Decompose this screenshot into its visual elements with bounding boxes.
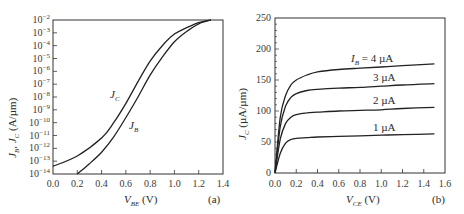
ib-curve — [275, 84, 434, 173]
jb-curve — [77, 20, 211, 174]
panel-a-x-ticks: 0.00.20.40.60.81.01.21.4 — [47, 170, 230, 189]
y-tick-label: 10−6 — [33, 64, 51, 76]
ib1-label: 1 µA — [373, 121, 396, 133]
x-tick-label: 0.0 — [269, 178, 282, 189]
y-tick-label: 10−9 — [33, 103, 51, 115]
x-tick-label: 0.6 — [333, 178, 346, 189]
y-tick-label: 50 — [261, 136, 271, 147]
x-tick-label: 1.4 — [217, 178, 230, 189]
y-tick-label: 150 — [256, 74, 271, 85]
y-tick-label: 10−11 — [29, 129, 50, 141]
panel-b-y-ticks: 050100150200250 — [256, 12, 279, 178]
panel-b-frame — [275, 18, 445, 173]
panel-a-x-axis-label: VBE (V) — [124, 193, 158, 208]
panel-a-tag: (a) — [208, 193, 221, 206]
x-tick-label: 1.0 — [168, 178, 181, 189]
jc-curve — [53, 20, 211, 166]
panel-a: 10−210−310−410−510−610−710−810−910−1010−… — [6, 13, 229, 208]
y-tick-label: 10−12 — [29, 141, 50, 153]
panel-b-x-ticks: 0.00.20.40.60.81.01.21.41.6 — [269, 169, 452, 189]
y-tick-label: 10−2 — [33, 13, 51, 25]
y-tick-label: 10−4 — [33, 39, 51, 51]
x-tick-label: 1.0 — [375, 178, 388, 189]
ib-curve — [275, 134, 434, 173]
y-tick-label: 250 — [256, 12, 271, 23]
jc-label: JC — [110, 88, 120, 103]
x-tick-label: 0.2 — [71, 178, 84, 189]
y-tick-label: 10−5 — [33, 52, 51, 64]
y-tick-label: 0 — [266, 167, 271, 178]
panel-b-y-axis-label: JC (µA/µm) — [236, 88, 251, 140]
panel-b: 050100150200250 0.00.20.40.60.81.01.21.4… — [236, 12, 451, 208]
x-tick-label: 0.4 — [311, 178, 324, 189]
y-tick-label: 200 — [256, 43, 271, 54]
ib4-label: IB = 4 µA — [350, 52, 393, 67]
ib2-label: 2 µA — [373, 94, 396, 106]
panel-a-y-axis-label: JB, JC (A/µm) — [6, 97, 21, 158]
figure: 10−210−310−410−510−610−710−810−910−1010−… — [0, 0, 464, 214]
panel-b-x-axis-label: VCE (V) — [346, 193, 380, 208]
x-tick-label: 1.2 — [192, 178, 205, 189]
x-tick-label: 1.6 — [439, 178, 452, 189]
x-tick-label: 1.4 — [418, 178, 431, 189]
y-tick-label: 10−10 — [29, 116, 50, 128]
y-tick-label: 10−7 — [33, 77, 51, 89]
x-tick-label: 0.8 — [144, 178, 157, 189]
jb-label: JB — [129, 119, 139, 134]
x-tick-label: 0.8 — [354, 178, 367, 189]
y-tick-label: 10−13 — [29, 154, 50, 166]
y-tick-label: 10−8 — [33, 90, 51, 102]
ib-curve — [275, 64, 434, 173]
x-tick-label: 1.2 — [396, 178, 409, 189]
ib3-label: 3 µA — [373, 71, 396, 83]
x-tick-label: 0.0 — [47, 178, 60, 189]
y-tick-label: 10−3 — [33, 26, 51, 38]
panel-b-curves — [275, 64, 434, 173]
x-tick-label: 0.4 — [95, 178, 108, 189]
panel-b-tag: (b) — [432, 193, 445, 206]
x-tick-label: 0.2 — [290, 178, 303, 189]
y-tick-label: 100 — [256, 105, 271, 116]
ib-curve — [275, 107, 434, 173]
x-tick-label: 0.6 — [120, 178, 133, 189]
